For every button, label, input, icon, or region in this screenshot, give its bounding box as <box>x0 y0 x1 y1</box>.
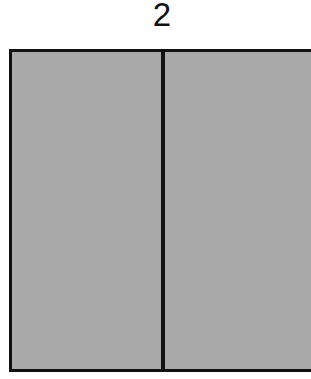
divider-line <box>161 52 165 369</box>
number-label: 2 <box>142 0 182 33</box>
divided-rectangle <box>9 49 311 372</box>
